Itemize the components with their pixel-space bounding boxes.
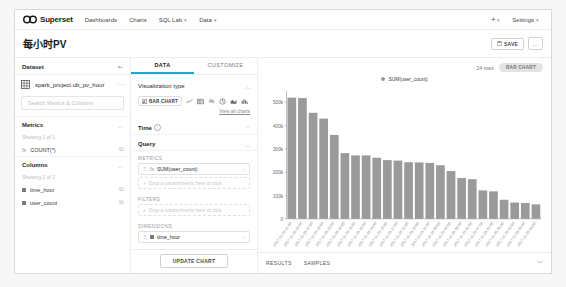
- dataset-menu-icon[interactable]: ⋮: [119, 81, 124, 88]
- chevron-right-icon[interactable]: ›: [243, 234, 245, 240]
- add-new-button[interactable]: +▾: [491, 16, 500, 23]
- metric-chip-label: SUM(user_count): [157, 166, 198, 172]
- copy-icon[interactable]: ⧉: [119, 199, 123, 206]
- big-number-icon[interactable]: 4k: [208, 98, 215, 105]
- time-section-label: Time: [138, 125, 152, 131]
- dimension-chip-time-hour[interactable]: ⠿ time_hour ›: [138, 231, 250, 243]
- superset-logo-icon: [23, 15, 37, 24]
- nav-item-sql-lab[interactable]: SQL Lab▾: [159, 17, 187, 23]
- copy-icon[interactable]: ⧉: [119, 186, 123, 193]
- collapse-results-icon[interactable]: ﹀: [537, 259, 543, 268]
- nav-item-charts[interactable]: Charts: [129, 17, 147, 23]
- bar[interactable]: [521, 203, 530, 219]
- bar[interactable]: [404, 162, 413, 219]
- bar[interactable]: [489, 191, 498, 219]
- columns-section-header[interactable]: Columns ︿: [15, 156, 130, 172]
- bar[interactable]: [319, 119, 328, 219]
- table-icon: [21, 80, 30, 89]
- table-chart-icon[interactable]: [197, 98, 204, 105]
- metrics-section-header[interactable]: Metrics ︿: [15, 116, 130, 132]
- tab-data[interactable]: DATA: [131, 58, 194, 74]
- dataset-panel-header: Dataset ⇤: [15, 58, 130, 75]
- query-section-header[interactable]: Query ︿: [131, 135, 257, 151]
- bar[interactable]: [415, 162, 424, 218]
- metrics-dropzone-label: Drop a column/metric here or click: [149, 181, 222, 186]
- drag-handle-icon[interactable]: ⠿: [143, 166, 147, 172]
- drag-handle-icon[interactable]: ⠿: [143, 234, 147, 240]
- metric-label: COUNT(*): [30, 147, 55, 153]
- bar[interactable]: [532, 204, 541, 218]
- histogram-icon[interactable]: [241, 98, 248, 105]
- dimension-chip-label: time_hour: [157, 234, 180, 240]
- chart-plot-area: 0100k200k300k400k500k2017-11-25 21:00201…: [258, 84, 551, 252]
- metrics-dropzone[interactable]: + Drop a column/metric here or click: [138, 177, 250, 189]
- chevron-up-icon[interactable]: ︿: [245, 140, 250, 147]
- visualization-type-header[interactable]: Visualization type ︿: [131, 75, 257, 92]
- info-icon[interactable]: i: [154, 124, 161, 131]
- search-input[interactable]: [26, 99, 119, 107]
- chevron-up-icon[interactable]: ︿: [118, 121, 123, 128]
- update-chart-button[interactable]: UPDATE CHART: [160, 254, 229, 268]
- line-chart-icon[interactable]: [186, 98, 193, 105]
- column-item-time-hour[interactable]: time_hour ⧉: [15, 183, 130, 196]
- filters-dropzone[interactable]: + Drop a column/metric here or click: [138, 204, 250, 216]
- bar[interactable]: [309, 113, 318, 219]
- bar[interactable]: [436, 165, 445, 219]
- bar[interactable]: [500, 200, 509, 219]
- bar[interactable]: [479, 190, 488, 218]
- bar[interactable]: [447, 171, 456, 219]
- chevron-down-icon[interactable]: ﹀: [245, 124, 250, 131]
- superset-brand[interactable]: Superset: [23, 15, 73, 24]
- collapse-panel-icon[interactable]: ⇤: [118, 63, 123, 70]
- chevron-up-icon[interactable]: ︿: [118, 161, 123, 168]
- tab-samples[interactable]: SAMPLES: [304, 260, 331, 266]
- nav-item-data[interactable]: Data▾: [199, 17, 217, 23]
- chart-legend: SUM(user_count): [258, 74, 551, 84]
- area-chart-icon[interactable]: [230, 98, 237, 105]
- bar[interactable]: [341, 153, 350, 219]
- bar-chart-svg[interactable]: 0100k200k300k400k500k2017-11-25 21:00201…: [262, 84, 545, 252]
- bar[interactable]: [383, 160, 392, 219]
- control-panel: DATA CUSTOMIZE Visualization type ︿: [131, 58, 258, 273]
- filters-control-label: FILTERS: [131, 192, 257, 204]
- metric-chip-sum-user-count[interactable]: ⠿ fx SUM(user_count) ›: [138, 163, 250, 175]
- bar[interactable]: [510, 203, 519, 219]
- bar[interactable]: [287, 98, 296, 219]
- copy-icon[interactable]: ⧉: [119, 146, 123, 153]
- bar[interactable]: [372, 158, 381, 219]
- search-metrics-columns[interactable]: [21, 96, 124, 110]
- view-all-charts-link[interactable]: View all charts: [131, 108, 257, 119]
- chevron-down-icon: ▾: [214, 17, 217, 23]
- metric-item-count[interactable]: fx COUNT(*) ⧉: [15, 143, 130, 156]
- chevron-down-icon: ▾: [536, 17, 539, 23]
- chevron-up-icon[interactable]: ︿: [245, 82, 250, 89]
- bar[interactable]: [468, 179, 477, 219]
- nav-item-dashboards[interactable]: Dashboards: [85, 17, 117, 23]
- bar[interactable]: [394, 161, 403, 219]
- tab-customize[interactable]: CUSTOMIZE: [194, 58, 257, 74]
- save-icon: [497, 41, 502, 46]
- column-item-user-count[interactable]: user_count ⧉: [15, 196, 130, 209]
- chart-viz-type-pill[interactable]: BAR CHART: [499, 63, 543, 72]
- bar[interactable]: [330, 135, 339, 219]
- bar[interactable]: [298, 98, 307, 219]
- explore-body: Dataset ⇤ spark_project.ub_pv_hour: [15, 58, 551, 273]
- legend-label: SUM(user_count): [388, 76, 427, 82]
- control-tabs: DATA CUSTOMIZE: [131, 58, 257, 75]
- viz-type-selected-bar-chart[interactable]: BAR CHART: [138, 96, 182, 106]
- bar[interactable]: [425, 163, 434, 219]
- results-tabs: RESULTS SAMPLES ﹀: [258, 252, 551, 273]
- chevron-right-icon[interactable]: ›: [243, 166, 245, 172]
- nav-item-settings[interactable]: Settings▾: [512, 17, 539, 23]
- save-button[interactable]: SAVE: [491, 38, 524, 50]
- bar[interactable]: [457, 178, 466, 219]
- visualization-type-label: Visualization type: [138, 83, 185, 89]
- more-options-button[interactable]: ...: [528, 37, 543, 50]
- page-title[interactable]: 每小时PV: [23, 36, 66, 51]
- tab-results[interactable]: RESULTS: [266, 260, 292, 266]
- bar[interactable]: [351, 155, 360, 218]
- dataset-item[interactable]: spark_project.ub_pv_hour ⋮: [15, 75, 130, 94]
- bar[interactable]: [362, 155, 371, 218]
- pie-chart-icon[interactable]: [219, 98, 226, 105]
- time-section-header[interactable]: Time i ﹀: [131, 119, 257, 135]
